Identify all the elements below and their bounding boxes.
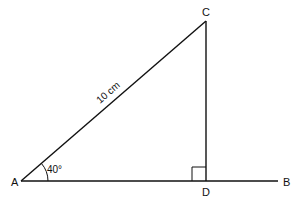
hypotenuse-label: 10 cm xyxy=(94,79,122,105)
right-angle-marker xyxy=(192,167,206,181)
label-b: B xyxy=(283,176,290,188)
angle-label: 40° xyxy=(47,164,62,175)
label-c: C xyxy=(202,6,210,18)
label-a: A xyxy=(11,176,19,188)
label-d: D xyxy=(202,186,210,198)
triangle-diagram: A B C D 40° 10 cm xyxy=(0,0,301,205)
line-ac-hypotenuse xyxy=(21,21,206,181)
